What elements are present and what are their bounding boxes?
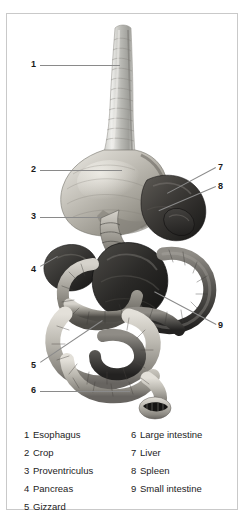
callout-label-9: 9 <box>218 321 223 330</box>
leader-line-1 <box>40 65 120 66</box>
callout-label-5: 5 <box>31 361 36 370</box>
leader-line-3 <box>40 217 101 218</box>
callout-label-8: 8 <box>218 182 223 191</box>
legend-item-6: 6Large intestine <box>131 426 202 444</box>
callout-label-4: 4 <box>31 265 36 274</box>
legend-label-1: Esophagus <box>33 429 81 440</box>
legend-label-9: Small intestine <box>140 483 202 494</box>
legend-label-4: Pancreas <box>33 483 73 494</box>
legend-item-8: 8Spleen <box>131 462 202 480</box>
legend-number-7: 7 <box>131 444 140 462</box>
esophagus-organ <box>104 25 135 154</box>
legend-item-7: 7Liver <box>131 444 202 462</box>
legend-label-3: Proventriculus <box>33 465 93 476</box>
legend-item-4: 4Pancreas <box>24 480 93 498</box>
legend-column-left: 1Esophagus 2Crop 3Proventriculus 4Pancre… <box>24 426 93 516</box>
legend-item-9: 9Small intestine <box>131 480 202 498</box>
leader-line-2 <box>40 170 122 171</box>
legend-number-6: 6 <box>131 426 140 444</box>
legend-label-8: Spleen <box>140 465 170 476</box>
callout-label-6: 6 <box>31 386 36 395</box>
legend-label-6: Large intestine <box>140 429 202 440</box>
legend: 1Esophagus 2Crop 3Proventriculus 4Pancre… <box>7 426 237 510</box>
legend-number-3: 3 <box>24 462 33 480</box>
legend-item-3: 3Proventriculus <box>24 462 93 480</box>
legend-item-2: 2Crop <box>24 444 93 462</box>
cloaca-opening <box>139 397 171 419</box>
legend-column-right: 6Large intestine 7Liver 8Spleen 9Small i… <box>131 426 202 498</box>
legend-number-4: 4 <box>24 480 33 498</box>
callout-label-3: 3 <box>31 212 36 221</box>
legend-number-9: 9 <box>131 480 140 498</box>
legend-number-5: 5 <box>24 498 33 516</box>
legend-item-1: 1Esophagus <box>24 426 93 444</box>
callout-label-1: 1 <box>31 60 36 69</box>
legend-item-5: 5Gizzard <box>24 498 93 516</box>
figure-frame: 1 2 3 4 5 6 7 8 9 1Esophagus 2Crop 3Prov… <box>6 13 238 510</box>
legend-number-1: 1 <box>24 426 33 444</box>
callout-label-7: 7 <box>218 163 223 172</box>
leader-line-6 <box>40 391 130 392</box>
legend-number-2: 2 <box>24 444 33 462</box>
legend-label-7: Liver <box>140 447 161 458</box>
callout-label-2: 2 <box>31 165 36 174</box>
legend-label-2: Crop <box>33 447 54 458</box>
legend-label-5: Gizzard <box>33 501 66 512</box>
legend-number-8: 8 <box>131 462 140 480</box>
